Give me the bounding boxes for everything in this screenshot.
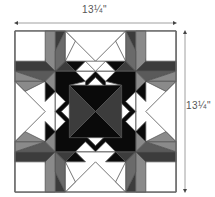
- quilt-block: [15, 31, 176, 192]
- quilt-diagram: [0, 0, 215, 197]
- center-square: [69, 85, 121, 137]
